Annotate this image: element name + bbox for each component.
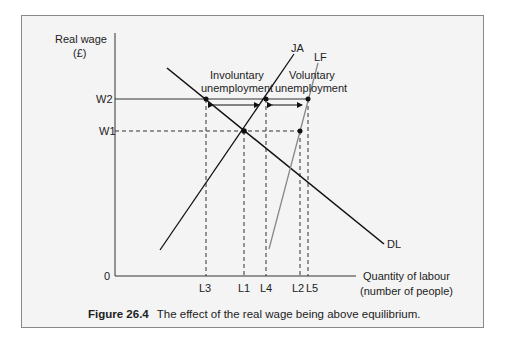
voluntary-label-line2: unemployment bbox=[275, 82, 347, 94]
x-tick-l2: L2 bbox=[292, 282, 304, 294]
voluntary-label-line1: Voluntary bbox=[289, 69, 335, 81]
curve-label-lf: LF bbox=[314, 51, 327, 63]
x-tick-l5: L5 bbox=[306, 282, 318, 294]
x-tick-l4: L4 bbox=[260, 282, 272, 294]
figure-number: Figure 26.4 bbox=[88, 308, 149, 320]
demand-curve-dl bbox=[167, 68, 384, 244]
origin-label: 0 bbox=[104, 270, 110, 282]
y-tick-w2: W2 bbox=[96, 93, 113, 105]
involuntary-label-line1: Involuntary bbox=[210, 69, 264, 81]
x-tick-l1: L1 bbox=[238, 282, 250, 294]
quantity-drop-lines bbox=[206, 99, 308, 276]
figure-caption-text: The effect of the real wage being above … bbox=[157, 308, 421, 320]
y-axis-label-line2: (£) bbox=[73, 47, 86, 59]
curve-label-dl: DL bbox=[387, 238, 401, 250]
x-axis-label-line2: (number of people) bbox=[360, 285, 453, 297]
x-tick-l3: L3 bbox=[199, 282, 211, 294]
x-axis-label-line1: Quantity of labour bbox=[363, 270, 450, 282]
equilibrium-points bbox=[204, 97, 311, 134]
y-tick-w1: W1 bbox=[99, 125, 116, 137]
y-axis-label-line1: Real wage bbox=[55, 33, 107, 45]
figure-caption: Figure 26.4 The effect of the real wage … bbox=[88, 308, 421, 320]
labour-market-diagram: Real wage (£) W2 W1 0 L3 L1 L4 L2 L5 Qua… bbox=[0, 0, 512, 346]
curve-label-ja: JA bbox=[291, 42, 305, 54]
involuntary-label-line2: unemployment bbox=[201, 82, 273, 94]
